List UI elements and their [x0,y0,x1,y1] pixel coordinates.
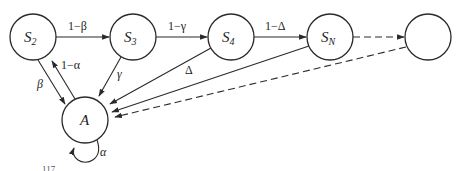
label-s2-s3: 1−β [68,19,87,33]
node-sn: SN [307,14,353,60]
label-a-s2: 1−α [61,58,81,72]
svg-text:A: A [79,112,90,128]
caption-fragment: 117 [42,164,56,171]
node-next-empty [405,14,451,60]
label-s4-a: Δ [185,63,193,77]
label-s4-sn: 1−Δ [265,19,286,33]
label-a-self: α [100,145,107,159]
label-s2-a: β [36,77,43,91]
node-s2: S2 [10,14,56,60]
node-s4: S4 [208,14,254,60]
label-s3-a: γ [117,67,122,81]
node-a: A [62,97,108,143]
markov-chain-diagram: S2 S3 S4 SN A 1−β 1−γ 1−Δ 1−α β γ Δ α 11… [0,0,460,171]
label-s3-s4: 1−γ [168,19,187,33]
node-s3: S3 [110,14,156,60]
edge-next-a [115,47,406,117]
